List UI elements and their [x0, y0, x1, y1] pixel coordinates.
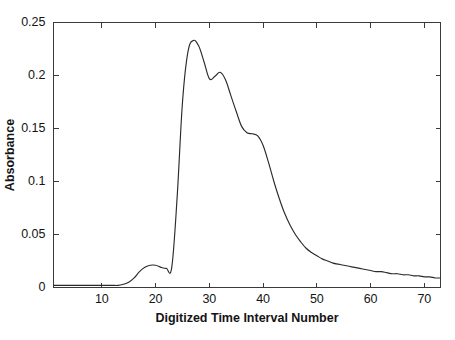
tick-mark-group	[54, 23, 441, 288]
x-tick-label: 20	[149, 292, 163, 306]
x-tick-label: 30	[202, 292, 216, 306]
absorbance-chart-figure: 00.050.10.150.20.25 10203040506070 Digit…	[0, 0, 455, 340]
x-axis-title: Digitized Time Interval Number	[155, 311, 338, 325]
y-axis-tick-label-group: 00.050.10.150.20.25	[21, 15, 45, 294]
x-tick-label: 70	[417, 292, 431, 306]
y-tick-label: 0.2	[28, 68, 45, 82]
y-tick-label: 0.1	[28, 174, 45, 188]
x-axis-tick-label-group: 10203040506070	[95, 292, 431, 306]
y-tick-label: 0.05	[21, 227, 45, 241]
x-tick-label: 10	[95, 292, 109, 306]
y-tick-label: 0.15	[21, 121, 45, 135]
y-tick-label: 0.25	[21, 15, 45, 29]
y-tick-label: 0	[39, 280, 46, 294]
x-tick-label: 40	[256, 292, 270, 306]
x-tick-label: 50	[310, 292, 324, 306]
plot-frame-border	[54, 23, 441, 288]
x-tick-label: 60	[364, 292, 378, 306]
chart-canvas: 00.050.10.150.20.25 10203040506070 Digit…	[0, 0, 455, 340]
absorbance-data-curve	[54, 40, 441, 285]
y-axis-title: Absorbance	[3, 119, 17, 191]
